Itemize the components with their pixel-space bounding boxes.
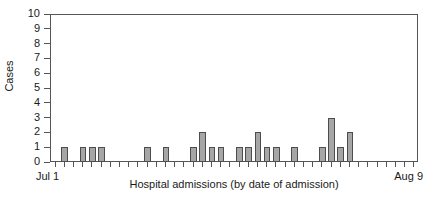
x-tick-2 (73, 162, 74, 167)
y-axis-title: Cases (3, 46, 15, 106)
bar (218, 147, 225, 162)
bar (190, 147, 197, 162)
x-tick-39 (413, 162, 414, 167)
bar-chart: Cases 012345678910 Jul 1 Aug 9 Hospital … (0, 0, 435, 198)
bar (319, 147, 326, 162)
y-tick-label-1: 1 (22, 141, 40, 152)
x-axis-title: Hospital admissions (by date of admissio… (50, 178, 418, 190)
bar (291, 147, 298, 162)
x-tick-5 (101, 162, 102, 167)
x-tick-0 (55, 162, 56, 167)
x-tick-12 (165, 162, 166, 167)
bar (328, 118, 335, 162)
x-tick-33 (358, 162, 359, 167)
y-tick-label-4: 4 (22, 97, 40, 108)
bar (80, 147, 87, 162)
x-tick-23 (266, 162, 267, 167)
x-tick-29 (321, 162, 322, 167)
bar (89, 147, 96, 162)
bar (144, 147, 151, 162)
x-tick-24 (275, 162, 276, 167)
bar (236, 147, 243, 162)
x-tick-25 (285, 162, 286, 167)
bar (273, 147, 280, 162)
x-tick-4 (91, 162, 92, 167)
bar (163, 147, 170, 162)
x-tick-20 (239, 162, 240, 167)
bar (61, 147, 68, 162)
bar (255, 132, 262, 162)
y-tick-label-0: 0 (22, 156, 40, 167)
bar (337, 147, 344, 162)
x-tick-9 (137, 162, 138, 167)
x-tick-8 (128, 162, 129, 167)
y-tick-label-8: 8 (22, 38, 40, 49)
x-tick-14 (183, 162, 184, 167)
x-tick-30 (331, 162, 332, 167)
x-tick-7 (119, 162, 120, 167)
x-tick-6 (110, 162, 111, 167)
y-tick-label-10: 10 (22, 8, 40, 19)
x-tick-18 (220, 162, 221, 167)
bar (199, 132, 206, 162)
bar (264, 147, 271, 162)
y-tick-label-7: 7 (22, 52, 40, 63)
x-tick-3 (82, 162, 83, 167)
x-tick-26 (294, 162, 295, 167)
x-tick-36 (386, 162, 387, 167)
bar (245, 147, 252, 162)
y-tick-label-5: 5 (22, 82, 40, 93)
x-tick-21 (248, 162, 249, 167)
x-tick-28 (312, 162, 313, 167)
x-tick-1 (64, 162, 65, 167)
x-tick-13 (174, 162, 175, 167)
x-tick-27 (303, 162, 304, 167)
x-tick-22 (257, 162, 258, 167)
x-tick-32 (349, 162, 350, 167)
x-tick-34 (367, 162, 368, 167)
y-tick-label-2: 2 (22, 126, 40, 137)
x-tick-17 (211, 162, 212, 167)
bar (98, 147, 105, 162)
x-tick-37 (395, 162, 396, 167)
x-tick-31 (340, 162, 341, 167)
x-tick-15 (193, 162, 194, 167)
y-tick-label-9: 9 (22, 23, 40, 34)
bar (209, 147, 216, 162)
x-tick-11 (156, 162, 157, 167)
bar (347, 132, 354, 162)
x-tick-19 (229, 162, 230, 167)
plot-area (50, 14, 418, 162)
y-tick-label-6: 6 (22, 67, 40, 78)
x-tick-35 (377, 162, 378, 167)
x-tick-16 (202, 162, 203, 167)
y-tick-label-3: 3 (22, 112, 40, 123)
x-tick-38 (404, 162, 405, 167)
x-tick-10 (147, 162, 148, 167)
